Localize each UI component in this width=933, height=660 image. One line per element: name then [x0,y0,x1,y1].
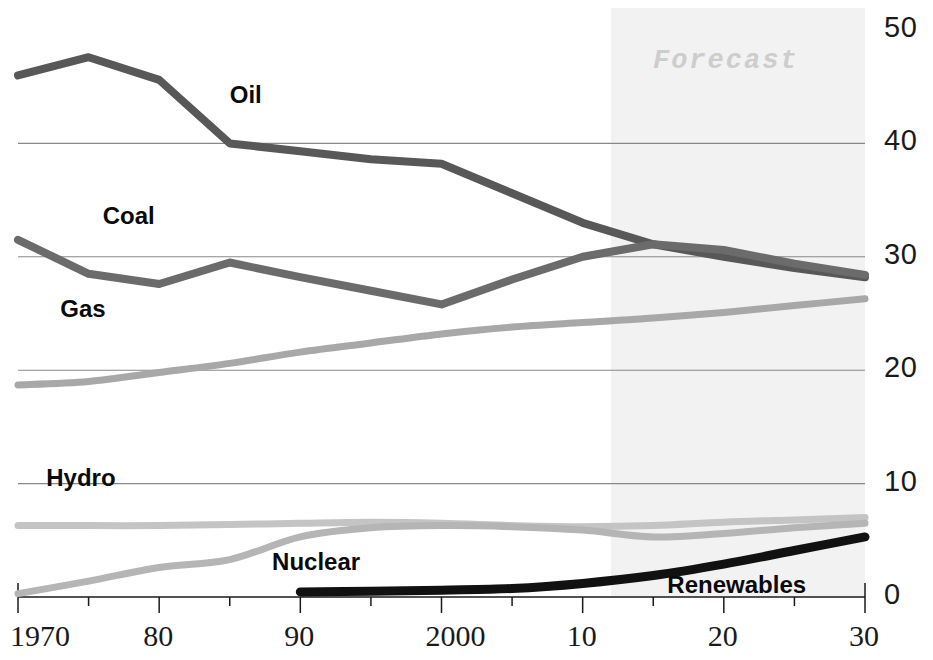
x-tick-label-20: 20 [708,619,738,653]
x-tick-label-80: 80 [143,619,173,653]
x-tick-label-2000: 2000 [426,619,486,653]
y-tick-label-50: 50 [884,11,917,44]
y-tick-label-0: 0 [884,578,901,611]
y-tick-label-20: 20 [884,351,917,384]
x-tick-label-30: 30 [849,619,879,653]
series-label-coal: Coal [103,202,155,230]
x-tick-label-90: 90 [284,619,314,653]
chart-canvas [0,0,933,660]
x-tick-label-1970: 1970 [10,619,70,653]
series-label-nuclear: Nuclear [272,548,360,576]
series-label-oil: Oil [230,81,262,109]
series-label-renewables: Renewables [667,571,806,599]
y-tick-label-40: 40 [884,124,917,157]
series-label-gas: Gas [60,295,105,323]
x-tick-label-10: 10 [567,619,597,653]
y-tick-label-10: 10 [884,465,917,498]
forecast-annotation-label: Forecast [653,46,799,76]
series-label-hydro: Hydro [46,464,115,492]
energy-mix-line-chart: 01020304050 197080902000102030 OilCoalGa… [0,0,933,660]
y-tick-label-30: 30 [884,238,917,271]
